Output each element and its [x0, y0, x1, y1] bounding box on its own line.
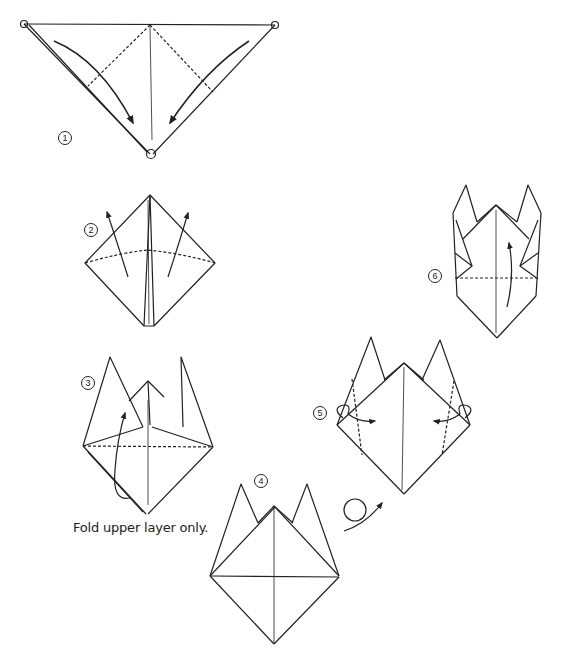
step-4-figure	[210, 484, 339, 644]
fold-instruction-caption: Fold upper layer only.	[73, 520, 208, 535]
step-4-number: 4	[254, 474, 268, 488]
step-1-number: 1	[58, 131, 72, 145]
step-5-number: 5	[313, 406, 327, 420]
step-5-figure	[337, 337, 471, 494]
origami-diagram	[0, 0, 561, 654]
turn-over-icon	[344, 499, 382, 531]
step-6-figure	[453, 185, 541, 338]
step-3-figure	[83, 357, 213, 514]
step-2-figure	[85, 195, 215, 326]
step-3-number: 3	[81, 376, 95, 390]
step-6-number: 6	[428, 269, 442, 283]
step-2-number: 2	[84, 223, 98, 237]
